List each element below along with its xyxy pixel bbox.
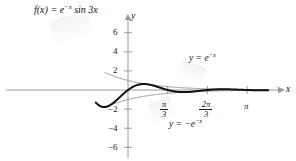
x-axis-label: x [286, 85, 290, 95]
upper-envelope-label-lhs: y = e [189, 53, 209, 63]
y-axis-label: y [131, 12, 135, 22]
y-tick-label: 2 [113, 66, 118, 75]
function-label: f(x) = e−x sin 3x [31, 3, 101, 16]
upper-envelope-label: y = e−x [186, 52, 219, 64]
axes-group [6, 14, 285, 158]
upper-envelope-label-exponent: −x [209, 51, 216, 58]
function-label-exponent: −x [64, 3, 72, 10]
y-tick-label: −6 [108, 143, 118, 152]
lower-envelope-label-lhs: y = −e [169, 119, 195, 129]
x-tick-label: π3 [160, 100, 169, 120]
x-tick-label: 2π3 [199, 100, 212, 120]
upper-envelope-curve [105, 72, 269, 90]
plot-canvas [0, 0, 296, 161]
function-label-rhs: sin 3x [72, 4, 98, 15]
function-label-lhs: f(x) = e [34, 4, 64, 15]
y-tick-label: −2 [108, 105, 118, 114]
y-tick-label: 6 [113, 28, 118, 37]
x-tick-label: π [244, 102, 249, 111]
function-plot-figure: f(x) = e−x sin 3x y = e−x y = −e−x x y π… [0, 0, 296, 161]
y-tick-label: 4 [113, 47, 118, 56]
x-axis-arrowhead [278, 87, 285, 93]
y-tick-label: −4 [108, 124, 118, 133]
